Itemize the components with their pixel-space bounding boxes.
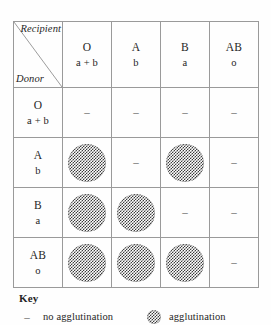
no-agglutination-dash-icon: – [231,207,237,218]
cell-donor-ab-recipient-b [161,238,210,288]
column-header-o: O a + b [63,22,112,88]
row-header-a-antibodies: b [14,163,62,178]
column-header-ab-group: AB [210,40,258,55]
agglutination-circle-icon [117,194,155,232]
key-legend: Key – no agglutination agglutination [19,292,263,324]
no-agglutination-dash-icon: – [231,157,237,168]
agglutination-circle-icon [68,244,106,282]
recipient-axis-label: Recipient [20,23,61,35]
cell-donor-a-recipient-a: – [112,138,161,188]
table-row: A b – – [14,138,259,188]
agglutination-circle-icon [166,144,204,182]
column-header-b-antibodies: a [161,55,209,70]
row-header-a-group: A [14,148,62,163]
document-page: Recipient Donor O a + b A b B a AB o [0,0,271,325]
cell-donor-b-recipient-o [63,188,112,238]
key-label-agglutination: agglutination [169,311,226,323]
key-title: Key [19,292,263,305]
cell-donor-o-recipient-ab: – [210,88,259,138]
column-header-b: B a [161,22,210,88]
table-row: B a – – [14,188,259,238]
no-agglutination-dash-icon: – [182,207,188,218]
row-header-b-antibodies: a [14,213,62,228]
column-header-b-group: B [161,40,209,55]
column-header-a-antibodies: b [112,55,160,70]
corner-header-cell: Recipient Donor [14,22,63,88]
cell-donor-b-recipient-ab: – [210,188,259,238]
cell-donor-a-recipient-ab: – [210,138,259,188]
cell-donor-ab-recipient-a [112,238,161,288]
row-header-b-group: B [14,198,62,213]
no-agglutination-dash-icon: – [19,311,35,323]
cell-donor-b-recipient-a [112,188,161,238]
no-agglutination-dash-icon: – [231,107,237,118]
key-label-no-agglutination: no agglutination [43,311,113,323]
row-header-b: B a [14,188,63,238]
row-header-a: A b [14,138,63,188]
donor-axis-label: Donor [16,73,44,85]
agglutination-circle-icon [68,194,106,232]
agglutination-circle-icon [68,144,106,182]
column-header-o-antibodies: a + b [63,55,111,70]
row-header-o-group: O [14,98,62,113]
key-entries-row: – no agglutination agglutination [19,310,263,324]
row-header-o: O a + b [14,88,63,138]
agglutination-circle-icon [117,244,155,282]
cell-donor-o-recipient-a: – [112,88,161,138]
no-agglutination-dash-icon: – [84,107,90,118]
cell-donor-a-recipient-o [63,138,112,188]
key-entry-no-agglutination: – no agglutination [19,311,147,323]
table-row: O a + b – – – – [14,88,259,138]
cell-donor-o-recipient-o: – [63,88,112,138]
agglutination-circle-icon [147,310,161,324]
cell-donor-b-recipient-b: – [161,188,210,238]
cell-donor-ab-recipient-ab: – [210,238,259,288]
cell-donor-ab-recipient-o [63,238,112,288]
column-header-a: A b [112,22,161,88]
key-entry-agglutination: agglutination [147,310,226,324]
column-header-o-group: O [63,40,111,55]
no-agglutination-dash-icon: – [231,257,237,268]
no-agglutination-dash-icon: – [133,157,139,168]
no-agglutination-dash-icon: – [133,107,139,118]
agglutination-circle-icon [166,244,204,282]
row-header-ab-group: AB [14,248,62,263]
cell-donor-o-recipient-b: – [161,88,210,138]
cell-donor-a-recipient-b [161,138,210,188]
column-header-ab: AB o [210,22,259,88]
table-row: AB o – [14,238,259,288]
column-header-a-group: A [112,40,160,55]
agglutination-matrix-table: Recipient Donor O a + b A b B a AB o [13,21,259,288]
no-agglutination-dash-icon: – [182,107,188,118]
row-header-ab-antibodies: o [14,263,62,278]
row-header-ab: AB o [14,238,63,288]
table-header-row: Recipient Donor O a + b A b B a AB o [14,22,259,88]
row-header-o-antibodies: a + b [14,113,62,128]
column-header-ab-antibodies: o [210,55,258,70]
